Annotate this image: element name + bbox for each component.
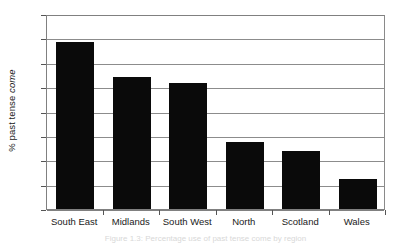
gridline <box>47 15 384 16</box>
bar-chart-figure: % past tense come 80706050403020100 Sout… <box>0 0 411 245</box>
x-tick-mark <box>329 210 330 215</box>
x-tick-mark <box>272 210 273 215</box>
bar <box>169 83 207 209</box>
x-tick-mark <box>385 210 386 215</box>
bar <box>226 142 264 209</box>
gridline <box>47 64 384 65</box>
bar <box>339 179 377 209</box>
y-axis-title: % past tense come <box>6 16 17 206</box>
gridline <box>47 161 384 162</box>
x-tick-mark <box>103 210 104 215</box>
bar <box>282 151 320 210</box>
x-category-label: Wales <box>312 216 402 227</box>
x-tick-mark <box>159 210 160 215</box>
bar <box>56 42 94 209</box>
plot-area <box>46 15 385 210</box>
gridline <box>47 88 384 89</box>
gridline <box>47 113 384 114</box>
gridline <box>47 137 384 138</box>
y-tick-mark <box>41 210 46 211</box>
bar <box>113 77 151 209</box>
y-axis-title-plain: % past tense <box>6 93 17 152</box>
gridline <box>47 39 384 40</box>
y-axis-title-italic: come <box>6 69 17 93</box>
gridline <box>47 186 384 187</box>
x-tick-mark <box>216 210 217 215</box>
figure-caption: Figure 1.3: Percentage use of past tense… <box>0 234 411 243</box>
